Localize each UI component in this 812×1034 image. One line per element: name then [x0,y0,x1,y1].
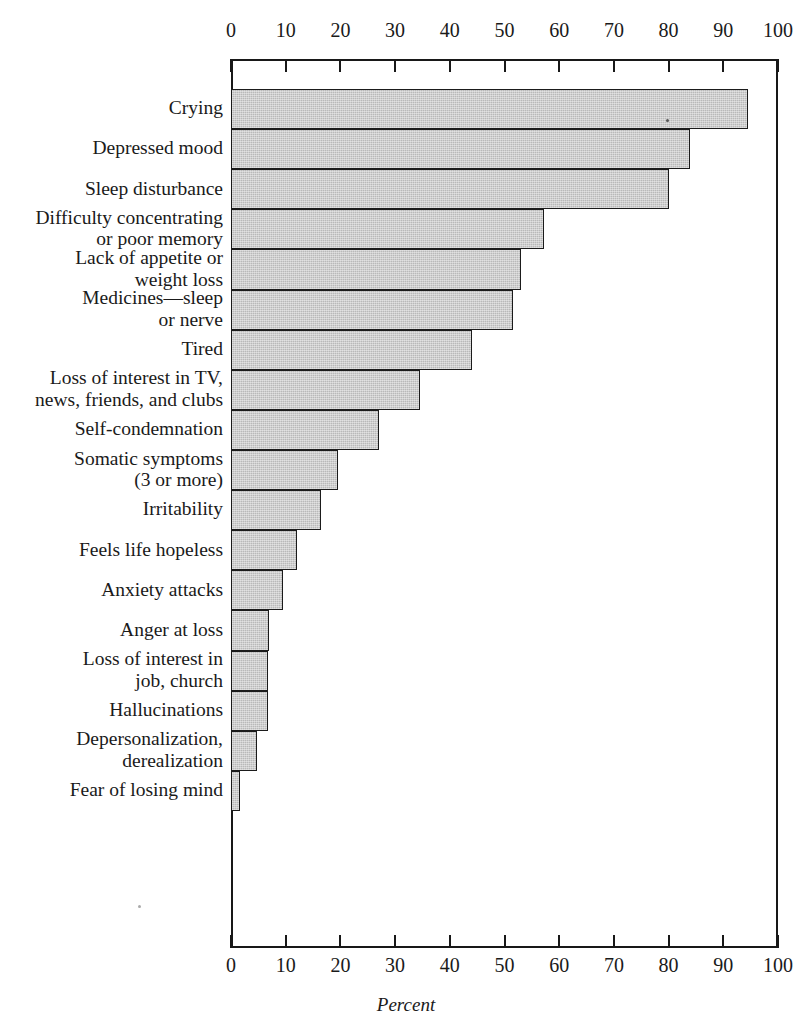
axis-label-bottom-30: 30 [365,955,425,975]
axis-tick-top-10 [285,59,287,72]
bar [231,570,283,610]
axis-tick-bottom-60 [558,935,560,948]
category-label: Loss of interest in TV, news, friends, a… [0,367,223,410]
bar-row [231,691,778,731]
axis-tick-top-80 [668,59,670,72]
bar-row [231,530,778,570]
axis-label-bottom-50: 50 [475,955,535,975]
category-label: Depersonalization, derealization [0,728,223,771]
axis-tick-bottom-70 [613,935,615,948]
axis-tick-bottom-10 [285,935,287,948]
bar-chart: 0102030405060708090100 CryingDepressed m… [0,0,812,1034]
axis-tick-top-30 [394,59,396,72]
bar [231,771,240,811]
category-label: Lack of appetite or weight loss [0,247,223,290]
bars-layer [231,89,778,811]
bar [231,450,338,490]
axis-tick-top-40 [449,59,451,72]
axis-label-top-80: 80 [639,20,699,40]
category-label: Self-condemnation [0,418,223,440]
axis-tick-bottom-20 [339,935,341,948]
axis-label-top-30: 30 [365,20,425,40]
axis-tick-top-50 [504,59,506,72]
bar-row [231,771,778,811]
bar-row [231,570,778,610]
category-label: Anxiety attacks [0,579,223,601]
category-label: Somatic symptoms (3 or more) [0,448,223,491]
category-label: Hallucinations [0,699,223,721]
bar [231,530,297,570]
bar [231,290,513,330]
axis-tick-bottom-0 [230,935,232,948]
bar [231,169,669,209]
axis-label-bottom-10: 10 [256,955,316,975]
axis-label-top-0: 0 [201,20,261,40]
category-label: Sleep disturbance [0,178,223,200]
axis-label-bottom-70: 70 [584,955,644,975]
bar [231,370,420,410]
bar-row [231,249,778,289]
bar-row [231,209,778,249]
category-label: Crying [0,97,223,119]
category-label: Depressed mood [0,137,223,159]
axis-label-bottom-0: 0 [201,955,261,975]
bar-row [231,450,778,490]
axis-tick-bottom-50 [504,935,506,948]
axis-label-top-60: 60 [529,20,589,40]
axis-label-top-10: 10 [256,20,316,40]
axis-tick-bottom-40 [449,935,451,948]
bar [231,89,748,129]
bar [231,610,269,650]
axis-tick-top-60 [558,59,560,72]
bar [231,731,257,771]
bar [231,249,521,289]
axis-label-bottom-40: 40 [420,955,480,975]
axis-tick-bottom-100 [777,935,779,948]
scan-speck [666,119,669,122]
scan-speck [138,905,141,908]
x-axis-title: Percent [0,994,812,1016]
bar-row [231,651,778,691]
bar-row [231,731,778,771]
axis-label-bottom-60: 60 [529,955,589,975]
category-label: Irritability [0,498,223,520]
axis-label-bottom-100: 100 [748,955,808,975]
bar [231,129,690,169]
bar-row [231,290,778,330]
bar-row [231,370,778,410]
category-label: Fear of losing mind [0,779,223,801]
axis-label-top-50: 50 [475,20,535,40]
bar [231,691,268,731]
category-label: Anger at loss [0,619,223,641]
axis-tick-bottom-80 [668,935,670,948]
category-label: Medicines—sleep or nerve [0,287,223,330]
bar-row [231,490,778,530]
bar-row [231,129,778,169]
bar-row [231,410,778,450]
axis-tick-bottom-30 [394,935,396,948]
bar [231,651,268,691]
axis-tick-top-100 [777,59,779,72]
axis-label-top-70: 70 [584,20,644,40]
axis-label-bottom-20: 20 [310,955,370,975]
category-label: Tired [0,338,223,360]
bar-row [231,610,778,650]
axis-tick-top-20 [339,59,341,72]
axis-label-bottom-80: 80 [639,955,699,975]
axis-label-top-90: 90 [693,20,753,40]
bar [231,410,379,450]
axis-tick-top-70 [613,59,615,72]
axis-label-top-40: 40 [420,20,480,40]
bar-row [231,169,778,209]
axis-tick-top-0 [230,59,232,72]
category-label: Loss of interest in job, church [0,648,223,691]
axis-tick-top-90 [722,59,724,72]
bar-row [231,330,778,370]
axis-label-bottom-90: 90 [693,955,753,975]
bar-row [231,89,778,129]
bar [231,209,544,249]
category-label: Difficulty concentrating or poor memory [0,207,223,250]
bar [231,330,472,370]
axis-label-top-100: 100 [748,20,808,40]
axis-label-top-20: 20 [310,20,370,40]
